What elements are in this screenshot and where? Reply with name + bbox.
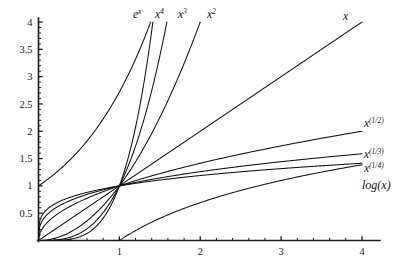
label-x-linear: x [342,10,349,22]
exponent: 2 [212,7,216,16]
y-axis-tick-label: 3.5 [19,44,32,55]
x-axis-tick-label: 2 [198,246,203,257]
y-axis-tick-label: 2.5 [19,99,32,110]
x-axis-tick-label: 4 [359,246,365,257]
exponent: (1/4) [369,161,384,170]
label-log-x: log(x) [362,178,391,192]
exponent: 3 [182,7,187,16]
chart-container: 12340.511.522.533.54 exx4x3x2xx(1/2)x(1/… [0,0,407,269]
y-axis-tick-label: 1 [27,180,32,191]
y-axis-tick-label: 4 [27,17,33,28]
exponent: (1/2) [369,116,384,125]
y-axis-tick-label: 2 [27,126,32,137]
y-axis-tick-label: 1.5 [19,153,32,164]
exponent: 4 [160,7,164,16]
x-axis-tick-label: 3 [279,246,284,257]
y-axis-tick-label: 3 [27,71,32,82]
y-axis-tick-label: 0.5 [19,208,32,219]
exponent: (1/3) [369,147,384,156]
x-axis-tick-label: 1 [117,246,122,257]
function-comparison-plot: 12340.511.522.533.54 exx4x3x2xx(1/2)x(1/… [0,0,407,269]
exponent: x [137,7,142,16]
